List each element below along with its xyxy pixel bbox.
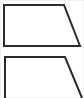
right-trapezoid-cropped — [5, 57, 82, 98]
figure-canvas — [0, 0, 84, 98]
shapes-svg — [0, 0, 84, 98]
right-trapezoid-complete — [4, 5, 80, 46]
